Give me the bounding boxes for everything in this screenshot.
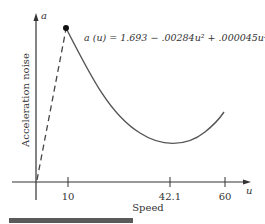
x-tick-label: 60 bbox=[219, 191, 232, 202]
x-tick-label: 10 bbox=[62, 191, 75, 202]
dashed-segment bbox=[37, 29, 66, 180]
x-axis-arrow-icon bbox=[243, 180, 251, 185]
curve bbox=[66, 28, 224, 143]
equation-label: a (u) = 1.693 − .00284u² + .000045u³ bbox=[84, 32, 265, 43]
footer-bar bbox=[9, 218, 133, 223]
chart: a u 10 42.1 60 Speed Acceleration noise … bbox=[0, 0, 265, 224]
y-axis-symbol: a bbox=[41, 10, 47, 21]
peak-point bbox=[63, 25, 69, 31]
y-axis-arrow-icon bbox=[34, 13, 39, 21]
x-axis-label: Speed bbox=[132, 202, 164, 213]
x-axis-symbol: u bbox=[246, 185, 252, 196]
x-tick-label: 42.1 bbox=[159, 191, 181, 202]
y-axis-label: Acceleration noise bbox=[20, 53, 31, 148]
